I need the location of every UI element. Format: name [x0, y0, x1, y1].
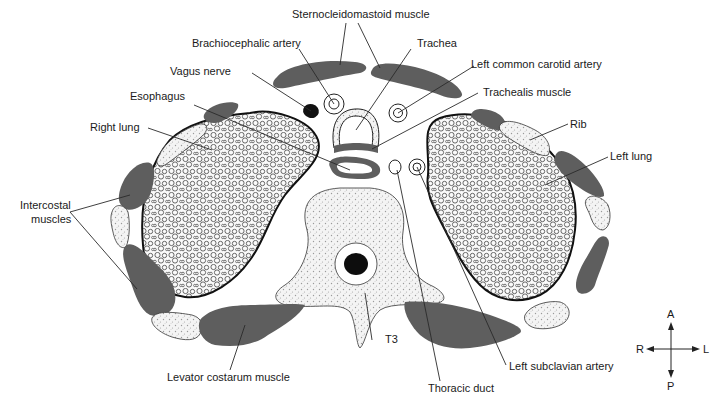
label-thoracic-duct: Thoracic duct: [428, 382, 494, 394]
left-lung: [427, 114, 576, 300]
label-intercostal-line1: Intercostal: [20, 199, 71, 211]
compass-right: R: [636, 343, 644, 355]
spinal-cord: [344, 253, 368, 275]
thoracic-duct: [389, 160, 401, 174]
label-trachea: Trachea: [417, 37, 458, 49]
sternocleidomastoid-muscles: [273, 61, 462, 98]
label-sternocleidomastoid: Sternocleidomastoid muscle: [292, 8, 430, 20]
label-vagus-nerve: Vagus nerve: [170, 65, 231, 77]
label-t3: T3: [385, 333, 398, 345]
esophagus: [329, 156, 380, 179]
compass-anterior: A: [667, 308, 675, 320]
arrow-down-icon: [668, 370, 674, 378]
arrow-left-icon: [646, 346, 654, 352]
orientation-compass: A P R L: [636, 308, 709, 392]
label-levator-costarum-muscle: Levator costarum muscle: [167, 371, 290, 383]
label-left-subclavian-artery: Left subclavian artery: [509, 360, 614, 372]
thorax-cross-section-diagram: Sternocleidomastoid muscle Brachiocephal…: [0, 0, 727, 406]
compass-left: L: [703, 343, 709, 355]
trachealis-muscle: [334, 143, 378, 153]
label-left-lung: Left lung: [610, 150, 652, 162]
label-trachealis-muscle: Trachealis muscle: [483, 86, 571, 98]
trachea: [333, 109, 379, 153]
label-rib: Rib: [570, 118, 587, 130]
right-lung: [142, 112, 319, 298]
label-intercostal-line2: muscles: [31, 213, 72, 225]
label-right-lung: Right lung: [90, 121, 140, 133]
label-left-common-carotid-artery: Left common carotid artery: [471, 58, 602, 70]
arrow-right-icon: [692, 346, 700, 352]
compass-posterior: P: [667, 380, 674, 392]
label-esophagus: Esophagus: [130, 90, 186, 102]
arrow-up-icon: [668, 322, 674, 330]
label-brachiocephalic-artery: Brachiocephalic artery: [192, 37, 301, 49]
